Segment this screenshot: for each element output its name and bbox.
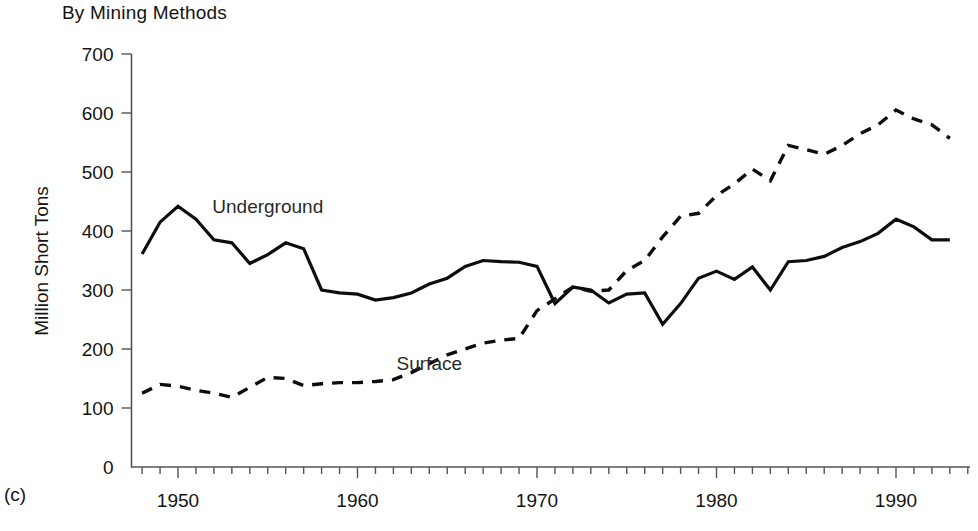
x-axis-ticks (142, 467, 968, 478)
y-axis-tick-label: 300 (82, 280, 114, 301)
y-axis-ticks (122, 54, 132, 408)
series-group (142, 110, 950, 397)
chart-figure: By Mining Methods (c) Million Short Tons… (0, 0, 978, 531)
axes-group (122, 54, 971, 478)
x-axis-tick-labels: 19501960197019801990 (157, 490, 917, 511)
panel-label: (c) (4, 484, 26, 506)
y-axis-title: Million Short Tons (31, 131, 53, 391)
x-axis-tick-label: 1950 (157, 490, 199, 511)
x-axis-tick-label: 1990 (875, 490, 917, 511)
series-annotation-surface: Surface (397, 353, 462, 374)
y-axis-tick-label: 0 (103, 457, 114, 478)
y-axis-tick-label: 400 (82, 221, 114, 242)
chart-title: By Mining Methods (62, 2, 227, 24)
x-axis-tick-label: 1970 (516, 490, 558, 511)
y-axis-tick-label: 200 (82, 339, 114, 360)
y-axis-tick-label: 600 (82, 103, 114, 124)
x-axis-tick-label: 1960 (336, 490, 378, 511)
y-axis-tick-label: 700 (82, 44, 114, 65)
series-annotation-underground: Underground (212, 196, 323, 217)
line-chart-plot: 0100200300400500600700 19501960197019801… (0, 0, 978, 531)
x-axis-tick-label: 1980 (695, 490, 737, 511)
y-axis-tick-label: 500 (82, 162, 114, 183)
y-axis-tick-label: 100 (82, 398, 114, 419)
series-line-underground (142, 206, 950, 324)
y-axis-tick-labels: 0100200300400500600700 (82, 44, 114, 478)
